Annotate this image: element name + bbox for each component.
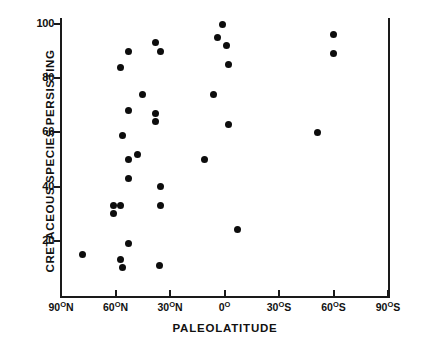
y-axis-title: CRETACEOUS SPECIES PERSISTING	[44, 16, 56, 306]
data-point	[152, 39, 159, 46]
data-point	[219, 21, 226, 28]
data-point	[125, 48, 132, 55]
data-point	[125, 107, 132, 114]
data-point	[234, 226, 241, 233]
data-point	[152, 110, 159, 117]
data-point	[225, 61, 232, 68]
data-point	[125, 156, 132, 163]
data-point	[330, 31, 337, 38]
data-point	[330, 50, 337, 57]
data-point	[139, 91, 146, 98]
data-point	[152, 118, 159, 125]
data-point	[157, 48, 164, 55]
data-point	[210, 91, 217, 98]
data-point	[117, 64, 124, 71]
data-point	[156, 262, 163, 269]
data-point	[119, 264, 126, 271]
data-point	[117, 202, 124, 209]
data-point	[117, 256, 124, 263]
data-point	[110, 210, 117, 217]
data-point	[79, 251, 86, 258]
data-point	[110, 202, 117, 209]
data-point	[157, 202, 164, 209]
data-point	[125, 240, 132, 247]
data-point	[134, 151, 141, 158]
plot-data-points	[0, 0, 421, 352]
data-point	[314, 129, 321, 136]
data-point	[157, 183, 164, 190]
data-point	[119, 132, 126, 139]
x-axis-title: PALEOLATITUDE	[60, 322, 390, 334]
data-point	[125, 175, 132, 182]
data-point	[225, 121, 232, 128]
data-point	[201, 156, 208, 163]
data-point	[214, 34, 221, 41]
scatter-plot-figure: 10080604020 90ON60ON30ON0O30OS60OS90OS C…	[0, 0, 421, 352]
data-point	[223, 42, 230, 49]
